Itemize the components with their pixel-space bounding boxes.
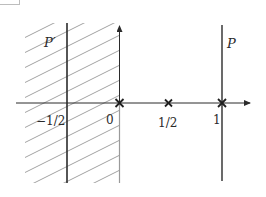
- hatched-region-p-prime: [0, 0, 160, 197]
- diagram-canvas: [0, 0, 266, 197]
- tick-label-zero: 0: [106, 114, 114, 126]
- tick-label-one: 1: [213, 114, 221, 126]
- label-p: P: [227, 37, 236, 50]
- tick-label-neg-half: −1/2: [36, 115, 65, 127]
- label-p-prime: P′: [44, 36, 56, 49]
- complex-plane-diagram: P′ P −1/2 0 1/2 1: [0, 0, 266, 197]
- tick-label-half: 1/2: [158, 117, 177, 129]
